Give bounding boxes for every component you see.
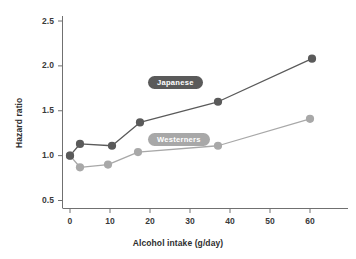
x-tick-label: 30 [176,216,204,226]
data-point-westerners [104,161,112,169]
y-tick-label: 1.5 [20,105,54,115]
data-point-japanese [136,118,144,126]
y-axis-title: Hazard ratio [14,98,24,148]
data-point-westerners [306,115,314,123]
y-tick-label: 2.0 [20,60,54,70]
data-point-japanese [108,142,116,150]
x-tick-label: 10 [96,216,124,226]
x-axis-title: Alcohol intake (g/day) [0,238,356,248]
x-tick-label: 0 [56,216,84,226]
data-point-japanese [214,98,222,106]
series-label-japanese: Japanese [148,76,203,89]
x-tick-label: 40 [216,216,244,226]
y-tick-label: 2.5 [20,16,54,26]
x-tick-label: 20 [136,216,164,226]
series-layer [66,55,316,172]
x-tick-label: 60 [296,216,324,226]
y-tick-label: 1.0 [20,150,54,160]
hazard-ratio-chart: 0.51.01.52.02.5 0102030405060 Hazard rat… [0,0,356,259]
data-point-japanese [76,140,84,148]
x-axis-ticks [70,209,310,214]
data-point-westerners [134,148,142,156]
data-point-japanese [66,152,74,160]
data-point-japanese [308,55,316,63]
data-point-westerners [214,142,222,150]
data-point-westerners [76,163,84,171]
x-tick-label: 50 [256,216,284,226]
y-tick-label: 0.5 [20,195,54,205]
y-axis-ticks [58,21,63,201]
series-label-westerners: Westerners [148,133,210,146]
